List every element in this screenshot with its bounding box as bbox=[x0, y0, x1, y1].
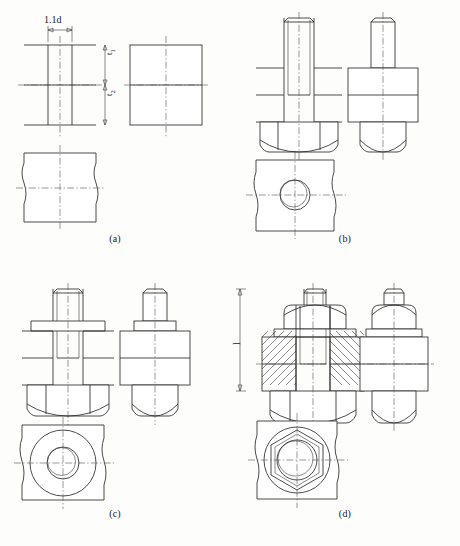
panel-caption-a: (a) bbox=[95, 233, 135, 244]
dimension-label-t2: t2 bbox=[104, 90, 116, 96]
panel-c-front-view bbox=[22, 283, 114, 425]
panel-b-side-view bbox=[348, 12, 418, 160]
drawing-sheet: 1.1d t1 t2 bbox=[0, 0, 460, 546]
panel-d-top-view bbox=[248, 413, 348, 508]
panel-caption-b: (b) bbox=[325, 233, 365, 244]
dimension-label-stud-length: l bbox=[231, 342, 242, 345]
panel-c-top-view bbox=[14, 417, 116, 509]
dimension-plate-thicknesses bbox=[103, 45, 107, 125]
panel-d-drawing bbox=[230, 273, 460, 546]
panel-a-side-view bbox=[124, 36, 208, 137]
panel-caption-c: (c) bbox=[95, 508, 135, 519]
dimension-label-t1: t1 bbox=[104, 49, 116, 55]
panel-b-top-view bbox=[246, 152, 346, 239]
panel-a-top-view bbox=[16, 145, 104, 230]
dimension-label-hole-diameter: 1.1d bbox=[44, 14, 62, 25]
panel-caption-d: (d) bbox=[325, 508, 365, 519]
panel-d: l bbox=[230, 273, 460, 546]
panel-a-front-view bbox=[18, 36, 102, 137]
panel-d-front-view bbox=[250, 273, 378, 445]
dimension-stud-length bbox=[236, 289, 246, 391]
panel-c-drawing bbox=[0, 273, 230, 546]
panel-b-front-view bbox=[256, 12, 342, 160]
panel-c-side-view bbox=[120, 283, 190, 425]
panel-d-side-view bbox=[354, 283, 434, 433]
panel-c bbox=[0, 273, 230, 546]
